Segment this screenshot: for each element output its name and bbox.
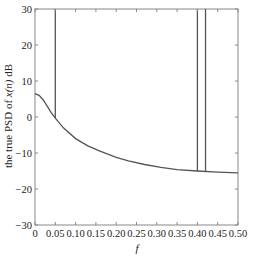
- axes-frame: [35, 9, 238, 225]
- y-tick-label: −10: [16, 148, 32, 159]
- x-tick-label: 0.20: [107, 228, 125, 239]
- x-tick-label: 0: [32, 228, 37, 239]
- spectral-lines: [55, 9, 205, 171]
- y-axis-ticks: −30−20−100102030: [16, 4, 238, 231]
- y-tick-label: −30: [16, 220, 32, 231]
- x-tick-label: 0.50: [229, 228, 247, 239]
- y-tick-label: 10: [22, 76, 33, 87]
- x-axis-label: f: [135, 242, 140, 254]
- y-tick-label: 20: [22, 40, 33, 51]
- y-tick-label: 30: [22, 4, 33, 15]
- y-tick-label: 0: [27, 112, 32, 123]
- psd-curve: [35, 94, 238, 173]
- plot-area: [35, 9, 238, 225]
- x-tick-label: 0.30: [148, 228, 166, 239]
- x-tick-label: 0.25: [127, 228, 145, 239]
- x-tick-label: 0.35: [168, 228, 186, 239]
- y-tick-label: −20: [16, 184, 32, 195]
- x-tick-label: 0.15: [87, 228, 105, 239]
- x-axis-ticks: 00.050.100.150.200.250.300.350.400.450.5…: [32, 9, 247, 239]
- x-tick-label: 0.05: [46, 228, 64, 239]
- psd-chart: 00.050.100.150.200.250.300.350.400.450.5…: [0, 0, 254, 263]
- y-axis-label: the true PSD of x(n) dB: [2, 64, 15, 168]
- x-tick-label: 0.40: [188, 228, 206, 239]
- x-tick-label: 0.10: [66, 228, 84, 239]
- x-tick-label: 0.45: [209, 228, 227, 239]
